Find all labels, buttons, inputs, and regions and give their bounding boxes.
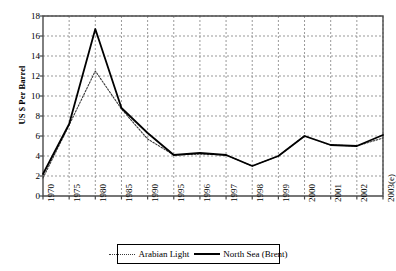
y-axis-tick-labels: 181614121086420 <box>22 0 40 200</box>
x-axis-tick-label: 1990 <box>151 184 160 202</box>
y-axis-tick-label: 4 <box>26 152 40 161</box>
x-axis-tick-label: 1999 <box>282 184 291 202</box>
y-axis-tick-label: 0 <box>26 192 40 201</box>
legend-label-north-sea-brent: North Sea (Brent) <box>223 249 287 259</box>
legend-item-north-sea-brent: North Sea (Brent) <box>194 249 287 259</box>
series-line-north-sea-brent <box>43 29 383 174</box>
y-axis-tick-label: 12 <box>26 72 40 81</box>
x-axis-tick-label: 1996 <box>203 184 212 202</box>
legend-swatch-dotted-icon <box>109 254 135 255</box>
x-axis-tick-label: 1998 <box>256 184 265 202</box>
y-axis-tick-label: 14 <box>26 52 40 61</box>
chart-legend: Arabian Light North Sea (Brent) <box>117 244 280 264</box>
x-axis-tick-label: 1975 <box>73 184 82 202</box>
x-axis-tick-label: 1980 <box>99 184 108 202</box>
x-axis-tick-label: 1985 <box>125 184 134 202</box>
plot-border <box>43 16 383 196</box>
x-axis-tick-label: 1995 <box>177 184 186 202</box>
x-axis-tick-label: 2000 <box>308 184 317 202</box>
legend-swatch-solid-icon <box>194 253 220 255</box>
x-axis-tick-label: 2003(e) <box>387 174 396 202</box>
y-axis-tick-label: 2 <box>26 172 40 181</box>
x-axis-tick-label: 2001 <box>334 184 343 202</box>
y-axis-tick-label: 10 <box>26 92 40 101</box>
x-axis-tick-label: 2002 <box>360 184 369 202</box>
legend-label-arabian-light: Arabian Light <box>138 249 189 259</box>
y-axis-tick-label: 8 <box>26 112 40 121</box>
y-axis-tick-label: 16 <box>26 32 40 41</box>
x-axis-tick-label: 1970 <box>47 184 56 202</box>
series-line-arabian-light <box>43 71 383 178</box>
y-axis-tick-label: 18 <box>26 12 40 21</box>
x-axis-tick-label: 1997 <box>230 184 239 202</box>
legend-item-arabian-light: Arabian Light <box>109 249 189 259</box>
y-axis-tick-label: 6 <box>26 132 40 141</box>
